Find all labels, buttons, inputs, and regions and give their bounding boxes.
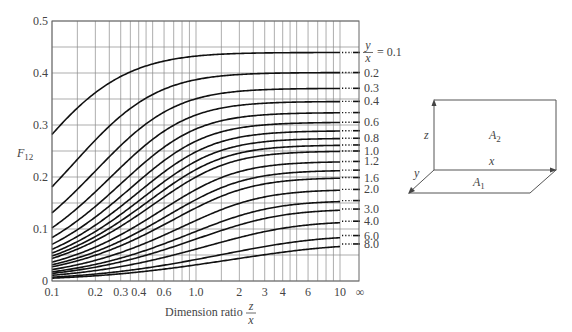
curve-labels: yx= 0.10.20.30.40.60.81.01.21.62.03.04.0… (363, 38, 402, 250)
diagram-label-a2: A2 (488, 128, 501, 144)
diagram-label-x: x (488, 154, 495, 168)
curve-label: 0.3 (364, 81, 379, 95)
diagram-label-a2-sub: 2 (496, 134, 501, 144)
x-tick-label: 10 (334, 285, 346, 299)
curve-label: 1.2 (364, 154, 379, 168)
x-tick-label: 4 (280, 285, 286, 299)
curve-label: 0.4 (364, 94, 379, 108)
x-tick-label: 0.2 (88, 285, 103, 299)
x-axis-ticks: 0.10.20.30.40.61.0234610∞ (45, 285, 365, 299)
diagram-label-a1-sub: 1 (480, 181, 485, 191)
y-tick-label: 0.3 (33, 118, 48, 132)
geometry-diagram (408, 99, 557, 194)
x-tick-label-infinity: ∞ (356, 285, 365, 299)
x-tick-label: 1.0 (189, 285, 204, 299)
x-tick-label: 0.6 (157, 285, 172, 299)
diagram-label-a1: A1 (472, 175, 485, 191)
x-tick-label: 6 (305, 285, 311, 299)
legend-ratio-num: y (364, 38, 371, 52)
y-tick-label: 0.4 (33, 66, 48, 80)
y-axis-label: F12 (16, 146, 33, 162)
x-axis-label: Dimension ratio (165, 305, 243, 319)
curve-label: = 0.1 (377, 45, 402, 59)
x-tick-label: 2 (236, 285, 242, 299)
x-axis-fraction-num: z (248, 299, 254, 313)
y-tick-label: 0.2 (33, 170, 48, 184)
y-tick-label: 0.5 (33, 14, 48, 28)
curve-label: 0.2 (364, 66, 379, 80)
x-tick-label: 3 (262, 285, 268, 299)
y-axis-label-sub: 12 (24, 152, 33, 162)
x-tick-label: 0.3 (113, 285, 128, 299)
x-tick-label: 0.4 (131, 285, 146, 299)
view-factor-figure: 00.10.20.30.40.5 0.10.20.30.40.61.023461… (0, 0, 572, 332)
y-tick-label: 0.1 (33, 222, 48, 236)
curve-label: 0.6 (364, 115, 379, 129)
x-axis-fraction-den: x (247, 313, 254, 327)
diagram-label-y: y (413, 166, 420, 180)
curve-label: 4.0 (364, 214, 379, 228)
diagram-label-z: z (423, 128, 429, 142)
y-axis-ticks: 00.10.20.30.40.5 (33, 14, 48, 288)
chart-grid (52, 21, 359, 281)
legend-ratio-den: x (364, 51, 371, 65)
curve-label: 8.0 (364, 237, 379, 251)
chart-curves (52, 52, 360, 278)
x-tick-label: 0.1 (45, 285, 60, 299)
curve-label: 2.0 (364, 182, 379, 196)
